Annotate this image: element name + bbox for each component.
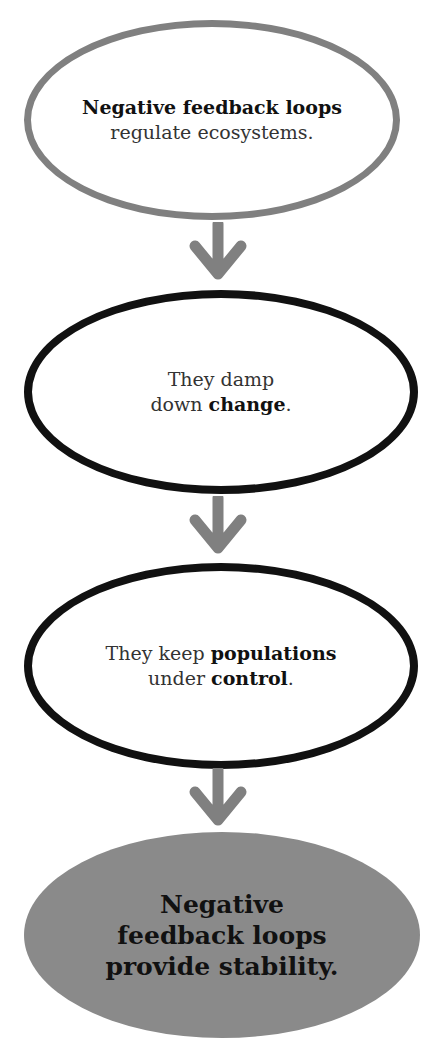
down-arrow-icon <box>183 496 253 556</box>
node-3-line-2-prefix: under <box>148 667 211 689</box>
node-2-line-2-prefix: down <box>150 393 208 415</box>
node-4-line-3: provide stability. <box>105 952 338 981</box>
node-negative-feedback-loops: Negative feedback loops regulate ecosyst… <box>24 20 400 220</box>
down-arrow-icon <box>183 222 253 282</box>
node-4-line-1: Negative <box>160 890 284 919</box>
node-4-line-2: feedback loops <box>117 921 326 950</box>
node-3-bold-control: control <box>211 667 288 689</box>
node-damp-down-change: They damp down change. <box>24 290 418 494</box>
node-2-bold-text: change <box>209 393 286 415</box>
node-3-period: . <box>288 667 294 689</box>
node-provide-stability: Negative feedback loops provide stabilit… <box>24 832 420 1038</box>
node-keep-populations-under-control: They keep populations under control. <box>24 563 418 769</box>
node-1-bold-text: Negative feedback loops <box>82 96 342 118</box>
node-1-text: regulate ecosystems. <box>110 121 313 143</box>
node-3-bold-populations: populations <box>211 642 337 664</box>
down-arrow-icon <box>183 768 253 828</box>
node-2-line-1: They damp <box>168 368 275 390</box>
node-3-line-1-prefix: They keep <box>106 642 211 664</box>
node-2-period: . <box>286 393 292 415</box>
